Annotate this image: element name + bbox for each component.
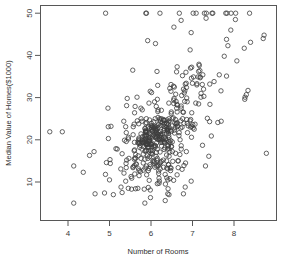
x-tick-label: 8: [232, 229, 237, 238]
data-point: [153, 41, 157, 45]
data-point: [158, 11, 162, 15]
data-point: [106, 106, 110, 110]
data-point: [174, 70, 178, 74]
data-point: [204, 16, 208, 20]
data-point: [123, 179, 127, 183]
data-point: [144, 173, 148, 177]
data-point: [125, 96, 129, 100]
y-tick-label: 10: [25, 177, 34, 186]
data-point: [93, 192, 97, 196]
data-point: [192, 127, 196, 131]
data-point: [179, 18, 183, 22]
data-point: [147, 178, 151, 182]
data-point: [179, 93, 183, 97]
data-point: [178, 152, 182, 156]
data-point: [92, 149, 96, 153]
data-point: [171, 159, 175, 163]
plot-canvas: 1020304050 45678 Number of Rooms Median …: [0, 0, 283, 268]
data-point: [131, 68, 135, 72]
data-point: [208, 102, 212, 106]
scatter-plot-figure: 1020304050 45678 Number of Rooms Median …: [0, 0, 283, 268]
data-point: [135, 95, 139, 99]
data-point: [248, 40, 252, 44]
data-point: [133, 104, 137, 108]
data-point: [185, 130, 189, 134]
data-point: [60, 130, 64, 134]
data-point: [156, 83, 160, 87]
data-point: [72, 201, 76, 205]
data-point: [87, 153, 91, 157]
data-point: [122, 119, 126, 123]
data-point: [224, 37, 228, 41]
data-points-layer: [48, 11, 269, 205]
data-point: [177, 130, 181, 134]
data-point: [166, 187, 170, 191]
data-point: [163, 182, 167, 186]
data-point: [175, 65, 179, 69]
data-point: [189, 135, 193, 139]
data-point: [152, 100, 156, 104]
data-point: [217, 73, 221, 77]
data-point: [189, 179, 193, 183]
y-tick-label: 40: [25, 50, 34, 59]
y-axis-ticks: 1020304050: [25, 8, 40, 186]
data-point: [233, 17, 237, 21]
data-point: [194, 101, 198, 105]
data-point: [124, 165, 128, 169]
y-tick-label: 20: [25, 135, 34, 144]
data-point: [103, 172, 107, 176]
data-point: [48, 130, 52, 134]
data-point: [207, 154, 211, 158]
data-point: [122, 171, 126, 175]
data-point: [167, 101, 171, 105]
x-tick-label: 4: [66, 229, 71, 238]
data-point: [154, 104, 158, 108]
plot-frame: [41, 6, 277, 221]
data-point: [233, 11, 237, 15]
data-point: [120, 190, 124, 194]
data-point: [180, 73, 184, 77]
data-point: [167, 192, 171, 196]
data-point: [143, 157, 147, 161]
data-point: [200, 143, 204, 147]
data-point: [242, 46, 246, 50]
data-point: [106, 136, 110, 140]
data-point: [133, 172, 137, 176]
data-point: [177, 11, 181, 15]
data-point: [235, 59, 239, 63]
data-point: [157, 176, 161, 180]
data-point: [190, 111, 194, 115]
data-point: [172, 25, 176, 29]
data-point: [119, 185, 123, 189]
data-point: [132, 111, 136, 115]
data-point: [72, 164, 76, 168]
data-point: [178, 138, 182, 142]
data-point: [103, 11, 107, 15]
data-point: [208, 82, 212, 86]
data-point: [191, 11, 195, 15]
data-point: [201, 87, 205, 91]
data-point: [120, 152, 124, 156]
data-point: [196, 102, 200, 106]
data-point: [155, 69, 159, 73]
data-point: [181, 192, 185, 196]
data-point: [188, 66, 192, 70]
data-point: [124, 103, 128, 107]
data-point: [148, 195, 152, 199]
data-point: [119, 167, 123, 171]
data-point: [219, 89, 223, 93]
data-point: [111, 192, 115, 196]
data-point: [224, 74, 228, 78]
data-point: [182, 121, 186, 125]
data-point: [226, 43, 230, 47]
data-point: [137, 173, 141, 177]
data-point: [176, 165, 180, 169]
data-point: [190, 81, 194, 85]
data-point: [107, 178, 111, 182]
data-point: [200, 82, 204, 86]
x-tick-label: 6: [149, 229, 154, 238]
data-point: [163, 198, 167, 202]
y-axis-title: Median Value of Homes($1000): [4, 60, 13, 166]
x-tick-label: 7: [190, 229, 195, 238]
data-point: [212, 79, 216, 83]
